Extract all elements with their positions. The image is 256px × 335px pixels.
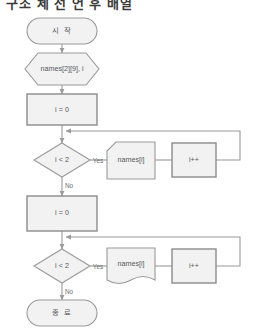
cond2-label: i < 2 xyxy=(55,261,69,270)
cond1-label: i < 2 xyxy=(55,155,69,164)
node-start[interactable]: 시 작 xyxy=(27,18,97,44)
inc1-label: i++ xyxy=(189,155,199,164)
node-cond1[interactable]: i < 2 xyxy=(34,143,90,177)
edge-label-no2: No xyxy=(65,288,74,295)
declare-label: names[2][9], i xyxy=(40,64,84,73)
node-declare[interactable]: names[2][9], i xyxy=(25,53,99,85)
node-init2[interactable]: i = 0 xyxy=(27,196,97,231)
out2-label: names[i] xyxy=(117,259,144,268)
node-out2[interactable]: names[i] xyxy=(107,248,155,284)
node-inc1[interactable]: i++ xyxy=(172,143,216,177)
edge-label-yes1: Yes xyxy=(93,157,103,164)
node-cond2[interactable]: i < 2 xyxy=(34,249,90,283)
init1-label: i = 0 xyxy=(55,105,69,114)
inc2-label: i++ xyxy=(189,261,199,270)
node-end[interactable]: 종 료 xyxy=(27,300,97,326)
edge-label-no1: No xyxy=(65,182,74,189)
init2-label: i = 0 xyxy=(55,208,69,217)
node-inc2[interactable]: i++ xyxy=(172,249,216,283)
start-label: 시 작 xyxy=(52,26,73,35)
node-init1[interactable]: i = 0 xyxy=(27,94,97,125)
edge-label-yes2: Yes xyxy=(93,263,103,270)
flowchart-canvas: 구조 체 선 언 후 배열 시 작 xyxy=(0,0,256,335)
flowchart-svg: 시 작 names[2][9], i i = 0 i < 2 Yes No na… xyxy=(0,0,256,335)
out1-label: names[i] xyxy=(117,155,144,164)
end-label: 종 료 xyxy=(52,308,73,317)
node-out1[interactable]: names[i] xyxy=(107,142,155,179)
